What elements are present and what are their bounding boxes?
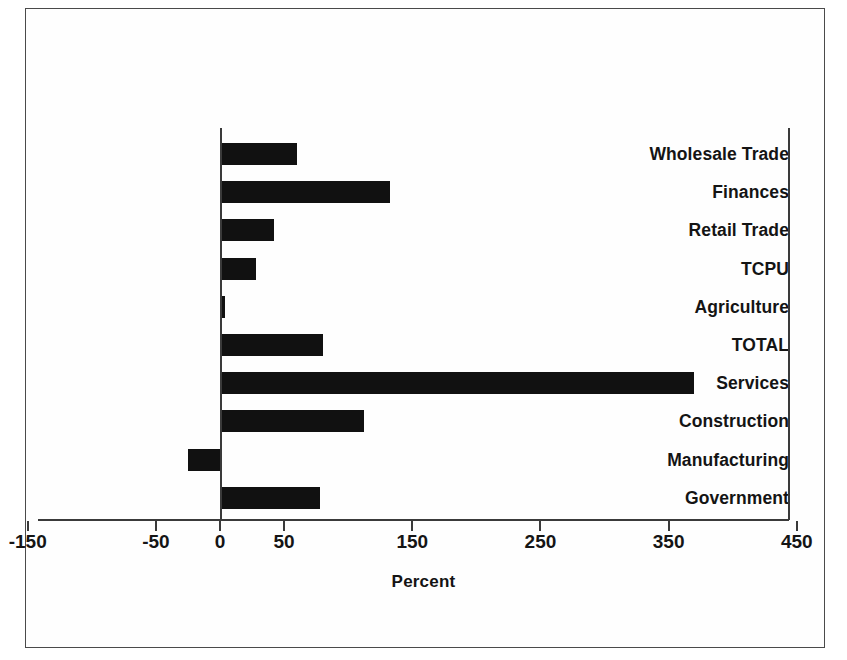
bar-row: Agriculture [0,289,847,325]
bar [188,449,220,471]
x-axis-tick-mark [155,521,157,531]
category-label: Services [716,369,789,397]
x-axis-tick-label: 250 [525,531,557,553]
x-axis-title: Percent [0,572,847,592]
bar-row: Wholesale Trade [0,136,847,172]
bar-chart-plot-area: Wholesale TradeFinancesRetail TradeTCPUA… [0,0,847,660]
bar [220,372,694,394]
bar-row: TCPU [0,251,847,287]
bar [220,410,364,432]
plot-right-rule [788,128,790,520]
category-label: Retail Trade [689,216,789,244]
bar [220,143,297,165]
bar-row: TOTAL [0,327,847,363]
bar-row: Retail Trade [0,212,847,248]
bar-row: Government [0,480,847,516]
category-label: Wholesale Trade [649,140,789,168]
bar-row: Services [0,365,847,401]
category-label: TCPU [741,255,789,283]
category-label: Manufacturing [667,446,789,474]
x-axis-line [38,519,789,521]
x-axis-tick-mark [796,521,798,531]
x-axis-tick-label: 50 [274,531,295,553]
bar-row: Manufacturing [0,442,847,478]
x-axis-tick-label: 150 [396,531,428,553]
x-axis-tick-label: -50 [142,531,169,553]
x-axis-tick-mark [539,521,541,531]
category-label: Agriculture [695,293,789,321]
x-axis-tick-mark [219,521,221,531]
x-axis-tick-mark [283,521,285,531]
bar [220,487,320,509]
zero-axis-line [220,128,222,520]
bar-row: Construction [0,403,847,439]
x-axis-tick-mark [27,521,29,531]
bar-row: Finances [0,174,847,210]
x-axis-tick-mark [411,521,413,531]
x-axis-tick-label: 450 [781,531,813,553]
category-label: Finances [712,178,789,206]
x-axis-tick-label: -150 [9,531,47,553]
bar [220,334,323,356]
category-label: TOTAL [732,331,789,359]
bar [220,258,256,280]
x-axis-tick-label: 0 [215,531,226,553]
x-axis-tick-label: 350 [653,531,685,553]
category-label: Government [685,484,789,512]
bar [220,181,390,203]
x-axis-tick-mark [668,521,670,531]
bar [220,219,274,241]
category-label: Construction [679,407,789,435]
